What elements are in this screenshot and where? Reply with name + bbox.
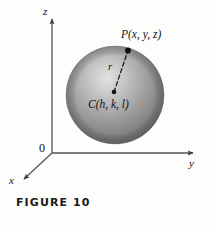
radius-label: r <box>108 61 112 72</box>
center-point-dot <box>112 90 117 95</box>
x-axis-line <box>24 153 52 179</box>
z-axis-label: z <box>43 6 47 17</box>
origin-label: 0 <box>39 142 45 154</box>
point-p-label: P(x, y, z) <box>121 29 161 41</box>
figure-caption: FIGURE 10 <box>16 196 91 209</box>
coordinate-sphere-diagram <box>0 0 210 228</box>
center-point-label: C(h, k, l) <box>88 99 129 111</box>
x-axis-label: x <box>9 175 14 186</box>
point-p-dot <box>125 48 131 54</box>
y-axis-label: y <box>189 158 194 169</box>
sphere-edge-shadow <box>66 46 164 144</box>
figure-container: z y x 0 P(x, y, z) C(h, k, l) r FIGURE 1… <box>0 0 210 228</box>
